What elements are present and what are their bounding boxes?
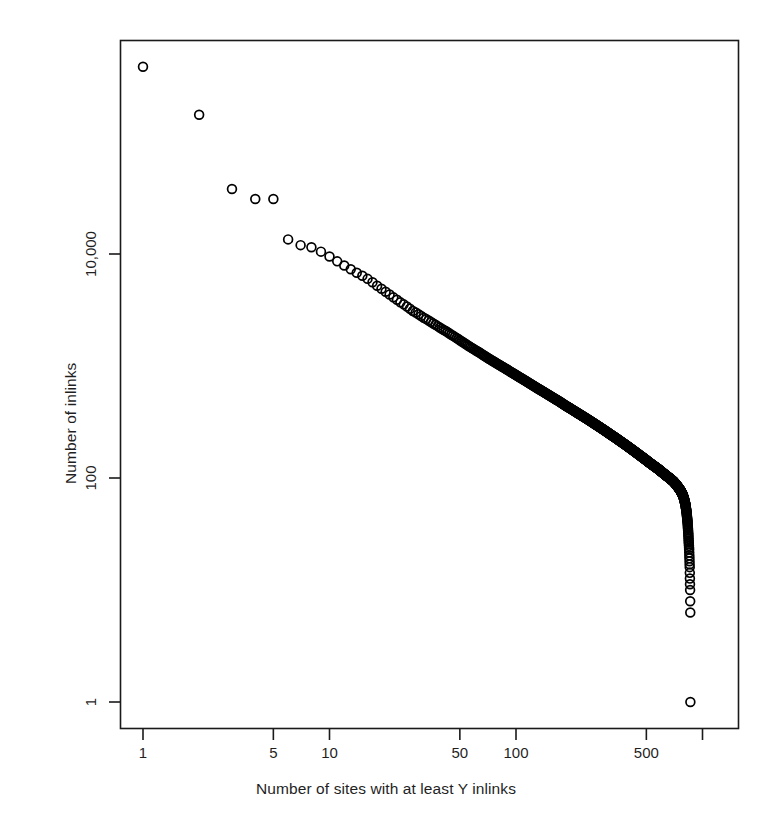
x-tick-label-5: 5 [269, 744, 277, 761]
data-point [307, 243, 316, 252]
x-axis-title: Number of sites with at least Y inlinks [0, 780, 772, 798]
data-point [139, 62, 148, 71]
x-tick-label-50: 50 [452, 744, 469, 761]
data-points [139, 62, 695, 706]
y-tick-label-1: 1 [82, 698, 99, 706]
data-point [195, 110, 204, 119]
data-point [284, 235, 293, 244]
data-point [228, 185, 237, 194]
data-point [269, 195, 278, 204]
x-tick-label-100: 100 [503, 744, 528, 761]
x-axis-ticks [143, 729, 703, 740]
data-point [686, 597, 695, 606]
data-point [317, 247, 326, 256]
y-tick-label-100: 100 [82, 465, 99, 490]
x-tick-label-10: 10 [321, 744, 338, 761]
scatter-plot-svg [0, 0, 772, 834]
data-point [686, 608, 695, 617]
y-tick-label-10000: 10,000 [82, 231, 99, 277]
data-point [296, 241, 305, 250]
chart-figure: 151050100500 110010,000 Number of sites … [0, 0, 772, 834]
data-point [686, 698, 695, 707]
data-point [686, 586, 695, 595]
x-tick-label-1: 1 [139, 744, 147, 761]
plot-frame [121, 41, 739, 729]
y-axis-title: Number of inlinks [62, 363, 80, 484]
x-tick-label-500: 500 [634, 744, 659, 761]
y-axis-ticks [109, 254, 120, 702]
data-point [251, 195, 260, 204]
